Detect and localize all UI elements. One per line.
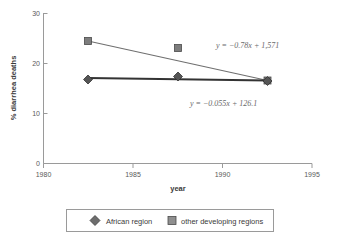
x-tick-label-1985: 1985 (125, 171, 141, 178)
y-tick-label-20: 20 (32, 60, 40, 67)
y-tick-label-0: 0 (36, 160, 40, 167)
data-point-african-1982 (84, 75, 93, 84)
x-axis-title: year (170, 184, 186, 193)
x-tick-label-1990: 1990 (215, 171, 231, 178)
equation-other-developing-regions: y = −0.78x + 1,571 (215, 41, 279, 50)
axes-group (44, 13, 313, 168)
data-point-other-1982 (85, 38, 92, 45)
chart-container: 30 20 10 0 1980 1985 1990 1995 year % di… (0, 0, 339, 239)
x-tick-label-1995: 1995 (304, 171, 320, 178)
y-tick-label-30: 30 (32, 10, 40, 17)
x-tick-label-1980: 1980 (36, 171, 52, 178)
y-tick-labels: 30 20 10 0 (32, 10, 40, 167)
legend: African region other developing regions (67, 210, 274, 232)
legend-square-icon (168, 217, 176, 225)
x-tick-labels: 1980 1985 1990 1995 (36, 171, 320, 178)
data-point-other-1987 (175, 45, 182, 52)
legend-label-other-developing-regions: other developing regions (181, 217, 263, 226)
diarrhea-deaths-trend-chart: 30 20 10 0 1980 1985 1990 1995 year % di… (0, 0, 339, 239)
y-axis-title: % diarrhea deaths (9, 56, 18, 121)
y-tick-label-10: 10 (32, 110, 40, 117)
legend-label-african-region: African region (106, 217, 152, 226)
equation-african-region: y = −0.055x + 126.1 (189, 99, 257, 108)
